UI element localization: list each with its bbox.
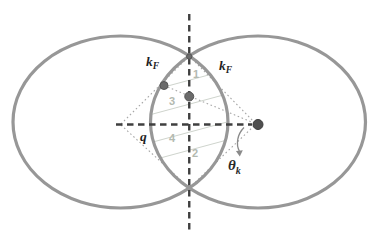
left-fermi-circle bbox=[13, 36, 228, 208]
top-intersection-dot bbox=[187, 54, 192, 59]
q-label: q bbox=[140, 129, 147, 144]
region-4-label: 4 bbox=[169, 132, 176, 144]
fermi-surface-diagram: kF kF q θk 1 3 4 2 bbox=[0, 0, 379, 239]
region-2-label: 2 bbox=[192, 147, 198, 159]
theta-arrowhead-icon bbox=[236, 150, 243, 156]
kf-right-label: kF bbox=[219, 58, 233, 75]
k-vector-dotted-line bbox=[164, 86, 254, 124]
axis-k-point-dot bbox=[185, 92, 194, 101]
region-1-label: 1 bbox=[193, 68, 199, 80]
right-center-dot bbox=[253, 120, 263, 130]
kite-edge-bottom-right-dotted-line bbox=[189, 124, 256, 188]
theta-angle-arc bbox=[237, 128, 244, 152]
diagram-canvas: kF kF q θk 1 3 4 2 bbox=[0, 0, 379, 239]
kf-left-label: kF bbox=[146, 54, 160, 71]
fermi-surface-k-point-dot bbox=[160, 82, 168, 90]
theta-k-label: θk bbox=[228, 157, 241, 176]
region-3-label: 3 bbox=[169, 95, 175, 107]
